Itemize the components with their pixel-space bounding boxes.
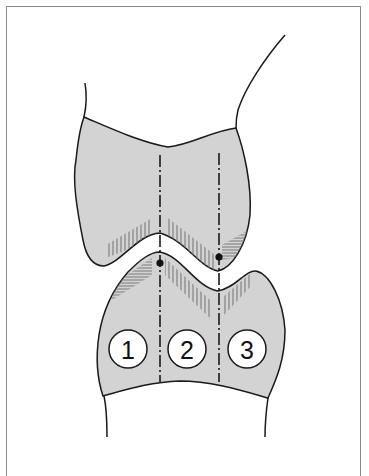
lower-shaft-right [265, 398, 268, 437]
zone-label-2-text: 2 [180, 336, 194, 364]
zone-label-2: 2 [168, 330, 206, 368]
zone-label-3: 3 [228, 330, 266, 368]
upper-shaft-left [84, 83, 86, 117]
lower-bone [97, 252, 285, 398]
lower-shaft-left [104, 396, 107, 437]
zone-label-3-text: 3 [240, 336, 254, 364]
upper-shaft-right [236, 35, 285, 128]
zone-label-1: 1 [109, 330, 147, 368]
zone-label-1-text: 1 [121, 336, 135, 364]
upper-bone [75, 117, 251, 275]
contact-point-left [156, 259, 163, 266]
contact-point-right [215, 253, 222, 260]
